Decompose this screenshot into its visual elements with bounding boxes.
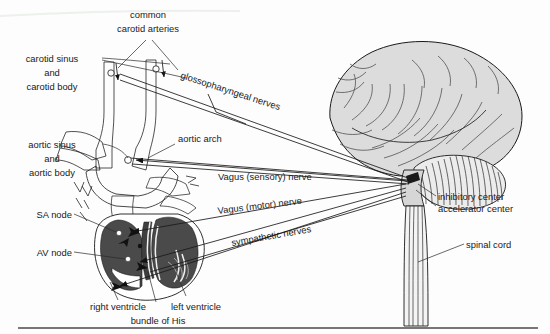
diagram-canvas: common carotid arteries carotid sinus an… — [0, 0, 550, 334]
label-sa-node: SA node — [37, 209, 72, 220]
cardiac-innervation-figure: common carotid arteries carotid sinus an… — [0, 0, 550, 334]
sa-node-marker — [116, 230, 121, 235]
label-aortic-sinus-line3: aortic body — [29, 167, 75, 178]
label-carotid-sinus-line3: carotid body — [26, 81, 77, 92]
spinal-cord — [404, 206, 428, 326]
bundle-of-his-marker — [138, 244, 142, 248]
label-right-ventricle: right ventricle — [90, 301, 146, 312]
label-vagus-sensory-nerve: Vagus (sensory) nerve — [218, 171, 312, 182]
label-common-carotid-line2: carotid arteries — [117, 23, 179, 34]
label-common-carotid-line1: common — [130, 9, 166, 20]
label-spinal-cord: spinal cord — [466, 239, 511, 250]
label-accelerator-center: accelerator center — [438, 203, 513, 214]
label-aortic-sinus-line1: aortic sinus — [28, 139, 76, 150]
label-carotid-sinus-line2: and — [44, 67, 60, 78]
label-left-ventricle: left ventricle — [171, 301, 221, 312]
label-aortic-sinus-line2: and — [44, 153, 60, 164]
label-carotid-sinus-line1: carotid sinus — [26, 53, 79, 64]
label-inhibitory-center: inhibitory center — [438, 191, 504, 202]
label-bundle-of-his: bundle of His — [131, 315, 186, 326]
av-node-marker — [125, 256, 130, 261]
label-aortic-arch: aortic arch — [178, 133, 222, 144]
left-carotid-sinus-receptor — [108, 70, 114, 76]
label-av-node: AV node — [37, 247, 72, 258]
